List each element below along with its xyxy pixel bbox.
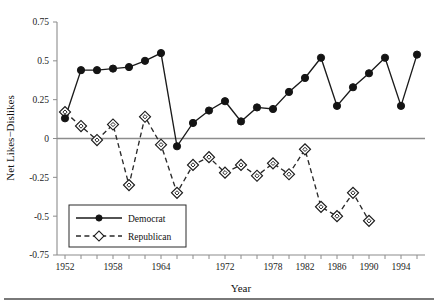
- figure-container: 0.750.50.250-0.25-0.5-0.75 1952195819641…: [0, 0, 438, 302]
- democrat-data-point: [237, 118, 244, 125]
- democrat-data-point: [413, 51, 420, 58]
- x-axis-tick-labels: 195219581964197219781982198619901994: [56, 262, 411, 272]
- democrat-data-point: [125, 63, 132, 70]
- democrat-data-point: [205, 107, 212, 114]
- democrat-data-point: [93, 67, 100, 74]
- legend-democrat-marker: [96, 215, 102, 221]
- x-tick-label: 1978: [264, 262, 283, 272]
- democrat-data-point: [77, 67, 84, 74]
- democrat-data-point: [269, 105, 276, 112]
- democrat-data-point: [109, 65, 116, 72]
- net-likes-dislikes-line-chart: 0.750.50.250-0.25-0.5-0.75 1952195819641…: [0, 0, 438, 302]
- democrat-data-point: [141, 57, 148, 64]
- y-axis-title: Net Likes−Dislikes: [4, 95, 16, 180]
- democrat-data-point: [253, 104, 260, 111]
- democrat-data-point: [157, 49, 164, 56]
- y-tick-label: 0: [44, 134, 49, 144]
- y-axis-tick-labels: 0.750.50.250-0.25-0.5-0.75: [29, 17, 49, 260]
- y-tick-label: 0.25: [32, 95, 49, 105]
- democrat-data-point: [397, 102, 404, 109]
- democrat-data-point: [301, 74, 308, 81]
- y-tick-label: -0.25: [29, 173, 49, 183]
- legend-label-republican: Republican: [128, 232, 172, 242]
- x-tick-label: 1982: [296, 262, 315, 272]
- democrat-data-point: [221, 98, 228, 105]
- y-tick-label: -0.75: [29, 250, 49, 260]
- x-axis-ticks: [65, 255, 417, 259]
- x-tick-label: 1972: [216, 262, 235, 272]
- x-tick-label: 1986: [328, 262, 347, 272]
- x-axis-title: Year: [231, 282, 252, 294]
- y-tick-label: 0.75: [32, 17, 49, 27]
- x-tick-label: 1994: [392, 262, 411, 272]
- democrat-data-point: [173, 143, 180, 150]
- x-tick-label: 1964: [152, 262, 171, 272]
- y-axis-ticks: [53, 22, 57, 255]
- democrat-data-point: [365, 70, 372, 77]
- x-tick-label: 1958: [104, 262, 123, 272]
- democrat-data-point: [61, 115, 68, 122]
- x-tick-label: 1952: [56, 262, 75, 272]
- democrat-data-point: [381, 54, 388, 61]
- chart-legend: Democrat Republican: [69, 205, 186, 247]
- x-tick-label: 1990: [360, 262, 379, 272]
- democrat-data-point: [189, 119, 196, 126]
- legend-label-democrat: Democrat: [128, 214, 166, 224]
- y-tick-label: 0.5: [37, 56, 49, 66]
- democrat-data-point: [285, 88, 292, 95]
- democrat-data-point: [349, 84, 356, 91]
- y-tick-label: -0.5: [34, 212, 49, 222]
- democrat-data-point: [317, 54, 324, 61]
- democrat-data-point: [333, 102, 340, 109]
